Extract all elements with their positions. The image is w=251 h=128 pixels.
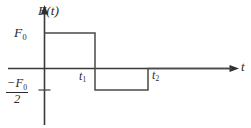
x-tick-label-t2-base: t xyxy=(152,68,155,82)
step-function-curve xyxy=(45,33,233,90)
y-axis-label-text: F(t) xyxy=(38,3,59,18)
y-tick-label-f0-base: F xyxy=(14,25,22,40)
x-tick-label-t1: t1 xyxy=(79,70,86,84)
y-tick-label-neg-half-f0: −F0 2 xyxy=(6,77,28,106)
y-axis-label: F(t) xyxy=(38,4,59,18)
fraction-neg-f0-over-2: −F0 2 xyxy=(6,77,28,106)
x-tick-label-t1-base: t xyxy=(79,69,82,83)
x-axis-label-text: t xyxy=(241,59,245,74)
y-tick-label-f0: F0 xyxy=(14,26,27,42)
fraction-denominator: 2 xyxy=(6,93,28,107)
force-time-plot-figure: F(t) F0 −F0 2 t1 t2 t xyxy=(0,0,251,128)
fraction-numerator-subscript: 0 xyxy=(23,83,27,92)
x-axis-label: t xyxy=(241,60,245,73)
fraction-numerator: −F0 xyxy=(6,77,28,93)
y-tick-label-f0-subscript: 0 xyxy=(22,33,26,42)
x-tick-label-t2-subscript: 2 xyxy=(156,74,160,83)
fraction-numerator-base: −F xyxy=(7,76,23,90)
x-tick-label-t1-subscript: 1 xyxy=(83,75,87,84)
plot-canvas xyxy=(0,0,251,128)
x-tick-label-t2: t2 xyxy=(152,69,159,83)
